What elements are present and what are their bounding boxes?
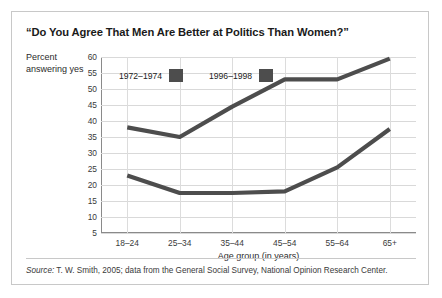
x-axis-title: Age group (in years): [218, 251, 300, 261]
plot-area: 51015202530354045505560 18–2425–3435–444…: [101, 57, 416, 233]
x-tick-label: 55–64: [326, 238, 349, 248]
y-tick-label: 50: [88, 84, 97, 94]
y-tick-label: 20: [88, 180, 97, 190]
y-tick-label: 45: [88, 100, 97, 110]
gridline: [101, 233, 416, 234]
source-note: Source: T. W. Smith, 2005; data from the…: [26, 266, 388, 275]
legend-label: 1996–1998: [209, 71, 252, 81]
figure-card: “Do You Agree That Men Are Better at Pol…: [11, 11, 429, 285]
legend-swatch-icon: [169, 69, 183, 82]
x-tick-label: 65+: [383, 238, 397, 248]
x-tick-label: 18–24: [116, 238, 139, 248]
source-text: T. W. Smith, 2005; data from the General…: [54, 266, 387, 275]
footer-divider: [26, 258, 416, 259]
y-tick-label: 55: [88, 68, 97, 78]
x-tick-label: 35–44: [221, 238, 244, 248]
chart-area: Percent answering yes 510152025303540455…: [12, 46, 430, 248]
series-line: [127, 129, 390, 193]
source-prefix: Source:: [26, 266, 54, 275]
y-tick-label: 35: [88, 132, 97, 142]
legend-item-1972-1974: 1972–1974: [119, 69, 183, 82]
y-tick-label: 10: [88, 212, 97, 222]
chart-legend: 1972–1974 1996–1998: [119, 69, 273, 82]
legend-swatch-icon: [259, 69, 273, 82]
y-tick-label: 5: [92, 228, 97, 238]
y-tick-label: 60: [88, 52, 97, 62]
series-lines: [101, 57, 416, 233]
y-tick-label: 15: [88, 196, 97, 206]
x-tick-label: 45–54: [273, 238, 296, 248]
legend-label: 1972–1974: [119, 71, 162, 81]
x-tick-label: 25–34: [168, 238, 191, 248]
figure-title: “Do You Agree That Men Are Better at Pol…: [26, 26, 349, 38]
y-tick-label: 30: [88, 148, 97, 158]
y-axis-title: Percent answering yes: [26, 52, 88, 75]
y-tick-label: 25: [88, 164, 97, 174]
y-tick-label: 40: [88, 116, 97, 126]
legend-item-1996-1998: 1996–1998: [209, 69, 273, 82]
